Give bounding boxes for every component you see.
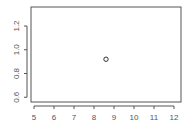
y-tick-label: 1.2 xyxy=(12,20,21,32)
y-tick-label: 0.8 xyxy=(12,67,21,79)
x-tick-label: 10 xyxy=(130,113,139,122)
x-axis: 56789101112 xyxy=(32,106,179,122)
x-tick-label: 12 xyxy=(170,113,179,122)
x-tick-label: 11 xyxy=(150,113,159,122)
x-tick-label: 5 xyxy=(32,113,37,122)
x-tick-label: 7 xyxy=(72,113,77,122)
data-points xyxy=(104,57,108,61)
data-point xyxy=(104,57,108,61)
plot-frame xyxy=(31,7,181,102)
x-tick-label: 6 xyxy=(52,113,57,122)
scatter-plot: 56789101112 0.60.81.01.2 xyxy=(0,0,190,127)
y-axis: 0.60.81.01.2 xyxy=(12,20,27,103)
x-tick-label: 9 xyxy=(112,113,117,122)
x-tick-label: 8 xyxy=(92,113,97,122)
y-tick-label: 0.6 xyxy=(12,91,21,103)
y-tick-label: 1.0 xyxy=(12,44,21,56)
